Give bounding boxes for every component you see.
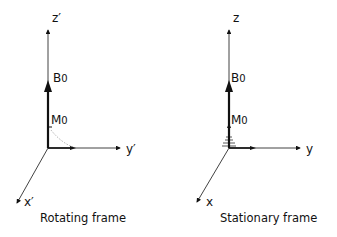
m0-letter: M xyxy=(231,113,241,127)
b0-label-stationary: B0 xyxy=(231,72,246,85)
y-label: y xyxy=(306,143,313,155)
y-prime-label: y′ xyxy=(126,143,136,155)
b0-subscript: 0 xyxy=(239,73,245,84)
z-label: z xyxy=(233,12,239,24)
x-axis xyxy=(197,148,229,202)
b0-subscript: 0 xyxy=(61,73,67,84)
b0-arrowhead-icon xyxy=(44,80,52,92)
z-prime-label: z′ xyxy=(52,12,61,24)
m0-label-stationary: M0 xyxy=(231,114,248,127)
m0-subscript: 0 xyxy=(241,115,247,126)
x-prime-label: x′ xyxy=(24,196,34,208)
m0-letter: M xyxy=(51,113,61,127)
b0-letter: B xyxy=(231,71,239,85)
rotating-frame-caption: Rotating frame xyxy=(40,212,126,224)
tip-path-arc xyxy=(51,130,76,148)
m0-label: M0 xyxy=(51,114,68,127)
rotating-frame-axes xyxy=(17,30,120,203)
x-label: x xyxy=(206,196,213,208)
m0-subscript: 0 xyxy=(61,115,67,126)
b0-label: B0 xyxy=(53,72,68,85)
stationary-frame-caption: Stationary frame xyxy=(220,212,317,224)
b0-letter: B xyxy=(53,71,61,85)
stationary-frame-axes xyxy=(197,30,300,202)
y-inner-arrow-icon xyxy=(250,146,256,150)
